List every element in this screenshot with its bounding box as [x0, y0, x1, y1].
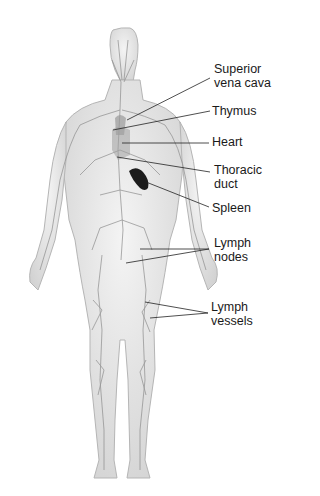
label-superior-vena-cava: Superior vena cava — [214, 62, 271, 90]
label-lymph-vessels: Lymph vessels — [211, 300, 253, 328]
label-line-2: vena cava — [214, 76, 271, 90]
label-line-2: duct — [214, 177, 262, 191]
label-line-1: Heart — [212, 135, 243, 149]
label-line-1: Lymph — [211, 300, 253, 314]
label-line-1: Superior — [214, 62, 271, 76]
label-line-2: nodes — [214, 250, 251, 264]
label-line-1: Thymus — [212, 104, 256, 118]
label-heart: Heart — [212, 135, 243, 149]
label-lymph-nodes: Lymph nodes — [214, 236, 251, 264]
leader-lymph-vessels-2 — [150, 313, 208, 318]
label-thymus: Thymus — [212, 104, 256, 118]
label-thoracic-duct: Thoracic duct — [214, 163, 262, 191]
label-line-1: Lymph — [214, 236, 251, 250]
label-line-1: Spleen — [212, 201, 251, 215]
label-line-2: vessels — [211, 314, 253, 328]
body-silhouette — [30, 28, 218, 478]
label-spleen: Spleen — [212, 201, 251, 215]
label-line-1: Thoracic — [214, 163, 262, 177]
